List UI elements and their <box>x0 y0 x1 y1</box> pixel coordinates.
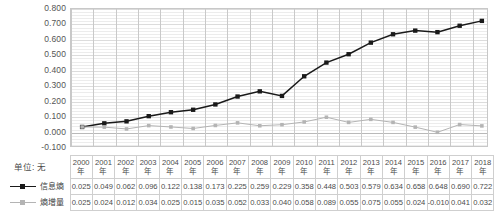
table-cell-value: 0.024 <box>405 195 427 211</box>
column-header-year: 2018年 <box>472 156 494 179</box>
series-line-1 <box>82 21 482 127</box>
column-header-year: 2000年 <box>70 156 92 179</box>
data-point-marker <box>235 94 239 98</box>
data-point-marker <box>191 127 195 131</box>
column-header-year: 2007年 <box>226 156 248 179</box>
data-point-marker <box>169 125 173 129</box>
table-cell-value: 0.089 <box>315 195 337 211</box>
legend-label: 信息熵 <box>40 182 64 191</box>
data-point-marker <box>124 119 128 123</box>
data-point-marker <box>346 52 350 56</box>
data-point-marker <box>302 120 306 124</box>
table-cell-value: 0.259 <box>249 179 271 195</box>
data-point-marker <box>413 125 417 129</box>
data-point-marker <box>125 127 129 131</box>
data-point-marker <box>457 24 461 28</box>
data-point-marker <box>236 121 240 125</box>
column-header-year: 2008年 <box>249 156 271 179</box>
table-cell-value: 0.015 <box>182 195 204 211</box>
data-point-marker <box>258 124 262 128</box>
column-header-year: 2011年 <box>315 156 337 179</box>
table-cell-value: 0.025 <box>159 195 181 211</box>
data-point-marker <box>103 125 107 129</box>
data-point-marker <box>191 108 195 112</box>
data-point-marker <box>102 121 106 125</box>
table-cell-value: 0.035 <box>204 195 226 211</box>
table-cell-value: 0.062 <box>115 179 137 195</box>
column-header-year: 2017年 <box>449 156 471 179</box>
y-tick-label: 0.700 <box>44 19 66 28</box>
y-tick-label: 0.100 <box>44 112 66 121</box>
table-cell-value: 0.055 <box>338 195 360 211</box>
table-cell-value: -0.010 <box>427 195 449 211</box>
table-cell-value: 0.448 <box>315 179 337 195</box>
y-tick-label: 0.500 <box>44 50 66 59</box>
data-point-marker <box>347 121 351 125</box>
table-cell-value: 0.722 <box>472 179 494 195</box>
data-point-marker <box>413 28 417 32</box>
table-cell-value: 0.122 <box>159 179 181 195</box>
data-point-marker <box>324 60 328 64</box>
table-cell-value: 0.025 <box>70 195 92 211</box>
table-cell-value: 0.052 <box>226 195 248 211</box>
data-point-marker <box>436 131 440 135</box>
table-cell-value: 0.075 <box>360 195 382 211</box>
data-point-marker <box>391 32 395 36</box>
table-cell-value: 0.032 <box>472 195 494 211</box>
plot-area-wrapper: 0.8000.7000.6000.5000.4000.3000.2000.100… <box>0 0 494 158</box>
chart-figure: 0.8000.7000.6000.5000.4000.3000.2000.100… <box>0 0 494 221</box>
legend-label: 熵增量 <box>40 198 64 207</box>
table-cell-value: 0.579 <box>360 179 382 195</box>
legend-swatch-icon <box>10 183 36 191</box>
table-cell-value: 0.049 <box>92 179 114 195</box>
table-cell-value: 0.690 <box>449 179 471 195</box>
column-header-year: 2002年 <box>115 156 137 179</box>
data-point-marker <box>369 118 373 122</box>
plot-canvas <box>70 8 488 147</box>
column-header-year: 2010年 <box>293 156 315 179</box>
data-table-wrapper: 单位: 无2000年2001年2002年2003年2004年2005年2006年… <box>0 155 494 221</box>
column-header-year: 2005年 <box>182 156 204 179</box>
table-cell-value: 0.648 <box>427 179 449 195</box>
y-tick-label: 0.200 <box>44 97 66 106</box>
table-cell-value: 0.041 <box>449 195 471 211</box>
data-table: 单位: 无2000年2001年2002年2003年2004年2005年2006年… <box>0 155 494 211</box>
column-header-year: 2014年 <box>382 156 404 179</box>
data-point-marker <box>147 114 151 118</box>
unit-label: 单位: 无 <box>14 162 46 172</box>
table-cell-value: 0.173 <box>204 179 226 195</box>
y-tick-label: -0.100 <box>41 143 66 152</box>
data-point-marker <box>280 123 284 127</box>
table-cell-value: 0.229 <box>271 179 293 195</box>
data-point-marker <box>325 115 329 119</box>
table-cell-value: 0.634 <box>382 179 404 195</box>
table-header-row: 单位: 无2000年2001年2002年2003年2004年2005年2006年… <box>0 156 494 179</box>
table-cell-value: 0.025 <box>70 179 92 195</box>
column-header-year: 2016年 <box>427 156 449 179</box>
column-header-year: 2012年 <box>338 156 360 179</box>
table-cell-value: 0.658 <box>405 179 427 195</box>
legend-item-1[interactable]: 信息熵 <box>0 179 70 195</box>
table-cell-value: 0.040 <box>271 195 293 211</box>
data-point-marker <box>435 30 439 34</box>
series-lines <box>71 9 487 146</box>
table-row: 信息熵0.0250.0490.0620.0960.1220.1380.1730.… <box>0 179 494 195</box>
y-tick-label: 0.000 <box>44 128 66 137</box>
table-cell-value: 0.012 <box>115 195 137 211</box>
y-tick-label: 0.800 <box>44 4 66 13</box>
legend-swatch-icon <box>10 199 36 207</box>
table-cell-value: 0.358 <box>293 179 315 195</box>
table-cell-value: 0.225 <box>226 179 248 195</box>
data-point-marker <box>147 124 151 128</box>
table-cell-value: 0.138 <box>182 179 204 195</box>
data-point-marker <box>391 121 395 125</box>
table-cell-value: 0.034 <box>137 195 159 211</box>
table-cell-value: 0.024 <box>92 195 114 211</box>
table-cell-value: 0.058 <box>293 195 315 211</box>
column-header-year: 2004年 <box>159 156 181 179</box>
data-point-marker <box>280 94 284 98</box>
data-point-marker <box>302 74 306 78</box>
legend-item-2[interactable]: 熵增量 <box>0 195 70 211</box>
column-header-year: 2001年 <box>92 156 114 179</box>
data-point-marker <box>169 110 173 114</box>
